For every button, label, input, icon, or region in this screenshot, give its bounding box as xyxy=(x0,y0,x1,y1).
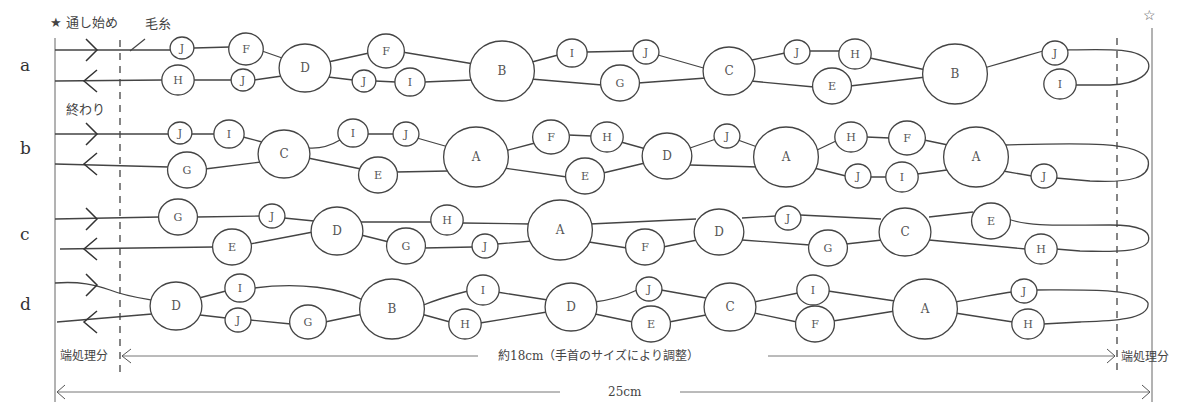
bead-D: D xyxy=(150,282,202,330)
bead-label: D xyxy=(714,225,724,239)
arrow-left-icon xyxy=(84,311,97,333)
bead-label: J xyxy=(269,210,274,223)
bead-E: E xyxy=(632,306,671,342)
bead-label: J xyxy=(724,130,729,143)
bead-label: F xyxy=(242,43,250,56)
bead-label: F xyxy=(641,241,649,254)
middle-dim-label: 約18cm（手首のサイズにより調整） xyxy=(498,348,699,363)
bead-H: H xyxy=(1025,234,1057,264)
bead-H: H xyxy=(162,65,194,95)
bead-I: I xyxy=(557,39,587,67)
bead-D: D xyxy=(279,44,331,92)
bead-F: F xyxy=(229,33,264,65)
bead-label: F xyxy=(382,45,390,58)
bead-label: D xyxy=(332,224,342,238)
bead-label: I xyxy=(811,284,815,297)
bead-label: J xyxy=(403,128,408,141)
bead-H: H xyxy=(449,309,481,339)
bead-H: H xyxy=(591,122,623,152)
bead-label: J xyxy=(643,46,648,59)
bead-label: H xyxy=(460,318,470,331)
row-label: b xyxy=(20,138,31,158)
bead-label: G xyxy=(304,316,313,329)
bead-E: E xyxy=(972,203,1011,239)
yarn-pointer xyxy=(130,39,145,51)
bead-label: E xyxy=(581,170,589,183)
edge-right-label: 端処理分 xyxy=(1121,350,1169,364)
bead-E: E xyxy=(359,157,398,193)
bead-C: C xyxy=(879,208,931,256)
bead-A: A xyxy=(893,279,958,339)
bead-J: J xyxy=(1031,164,1057,188)
bead-label: A xyxy=(971,150,981,164)
bead-J: J xyxy=(225,308,251,332)
bead-G: G xyxy=(168,152,207,188)
bead-label: H xyxy=(850,48,860,61)
total-dim-label: 25cm xyxy=(608,385,642,399)
bead-label: J xyxy=(361,75,366,88)
bead-label: E xyxy=(228,241,236,254)
bead-label: A xyxy=(781,150,791,164)
bead-C: C xyxy=(704,283,756,331)
bead-I: I xyxy=(214,120,244,148)
bead-label: G xyxy=(824,242,833,255)
bead-label: J xyxy=(855,170,860,183)
bead-B: B xyxy=(360,279,425,339)
bead-D: D xyxy=(311,207,363,255)
bead-label: H xyxy=(602,131,612,144)
bead-J: J xyxy=(714,124,740,148)
bead-H: H xyxy=(835,122,867,152)
bead-label: I xyxy=(570,47,574,60)
bead-I: I xyxy=(886,162,918,192)
bead-C: C xyxy=(703,47,755,95)
bead-label: C xyxy=(279,147,288,161)
bead-F: F xyxy=(533,120,570,154)
bead-H: H xyxy=(1012,309,1044,339)
bead-J: J xyxy=(845,164,871,188)
yarn-label: 毛糸 xyxy=(145,16,171,31)
bead-F: F xyxy=(796,306,835,342)
bead-B: B xyxy=(470,41,535,101)
bead-label: A xyxy=(920,302,930,316)
bead-A: A xyxy=(444,127,509,187)
bead-G: G xyxy=(159,199,198,235)
bead-C: C xyxy=(258,130,310,178)
bead-label: B xyxy=(498,64,507,78)
bead-label: E xyxy=(647,318,655,331)
bead-F: F xyxy=(368,34,405,68)
bead-label: G xyxy=(402,240,411,253)
rows-layer: aJFHJDFJIBIJGCJHEBJIbJIGCIJEAFHEDJAHFJIA… xyxy=(20,33,1149,342)
bead-E: E xyxy=(813,68,852,104)
bead-label: I xyxy=(1058,78,1062,91)
arrow-left-icon xyxy=(84,153,97,175)
bead-label: J xyxy=(794,46,799,59)
start-label: ★ 通し始め xyxy=(50,15,118,30)
bead-J: J xyxy=(168,122,192,144)
bead-I: I xyxy=(797,275,829,305)
bead-label: J xyxy=(235,314,240,327)
bead-J: J xyxy=(259,204,285,228)
bead-H: H xyxy=(431,205,463,235)
bead-J: J xyxy=(393,122,419,146)
bead-G: G xyxy=(387,228,426,264)
bead-label: E xyxy=(987,215,995,228)
bead-label: J xyxy=(1052,47,1057,60)
bead-label: J xyxy=(1041,170,1046,183)
bead-D: D xyxy=(545,283,597,331)
bead-H: H xyxy=(839,39,871,69)
bead-label: J xyxy=(177,127,182,140)
bead-J: J xyxy=(472,234,498,258)
bead-J: J xyxy=(775,206,801,230)
bead-label: C xyxy=(724,64,733,78)
row-label: d xyxy=(20,294,31,314)
pattern-row-d: dDIJGBIHDJECIFAJH xyxy=(20,274,1148,342)
bead-I: I xyxy=(1044,69,1076,99)
bead-E: E xyxy=(213,229,252,265)
bead-label: F xyxy=(547,131,555,144)
bead-A: A xyxy=(528,200,593,260)
bead-label: J xyxy=(1021,285,1026,298)
end-label: 終わり xyxy=(66,102,105,117)
bead-label: G xyxy=(183,164,192,177)
bead-label: J xyxy=(179,42,184,55)
bead-J: J xyxy=(633,40,659,64)
